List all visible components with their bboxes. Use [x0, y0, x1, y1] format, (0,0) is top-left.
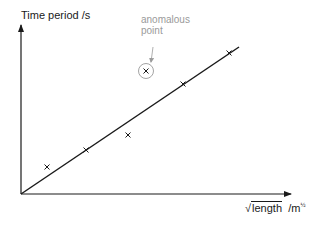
x-axis-label-main: length [251, 201, 282, 214]
anomalous-point-label: anomalous point [141, 14, 190, 36]
anomalous-annotation [139, 47, 154, 79]
annotation-arrow [151, 47, 153, 62]
fit-line [21, 47, 239, 194]
best-fit-line [21, 47, 239, 194]
axes [21, 25, 291, 194]
annotation-line-1: anomalous [141, 14, 190, 25]
x-axis-unit-exponent: ½ [300, 202, 305, 208]
data-point [45, 165, 50, 170]
data-point [126, 133, 131, 138]
annotation-line-2: point [141, 25, 190, 36]
anomalous-data-point [144, 69, 149, 74]
data-points [45, 51, 232, 170]
y-axis-label: Time period /s [21, 9, 90, 21]
x-axis-unit: /m [288, 202, 300, 214]
x-axis-label: √length /m½ [245, 202, 305, 214]
data-point [84, 148, 89, 153]
